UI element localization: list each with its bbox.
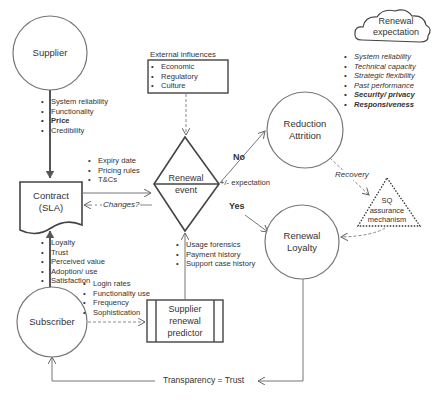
- list-item: T&Cs: [87, 175, 140, 185]
- list-item: Functionality: [40, 107, 108, 117]
- list-item: System reliability: [40, 97, 108, 107]
- sq-line1: SQ: [360, 196, 414, 206]
- transparency-to-subscriber-edge: [52, 357, 155, 381]
- list-item: Loyalty: [40, 238, 105, 248]
- supplier-label: Supplier: [20, 47, 80, 59]
- list-item: Payment history: [175, 250, 255, 260]
- list-item: Culture: [150, 81, 198, 91]
- list-item: Trust: [40, 248, 105, 258]
- list-item: Frequency: [82, 298, 150, 308]
- list-item: Credibility: [40, 126, 108, 136]
- list-item: Sophistication: [82, 308, 150, 318]
- renewal-expectation-list: System reliability Technical capacity St…: [343, 52, 416, 110]
- contract-label: Contract (SLA): [20, 190, 82, 214]
- list-item: Strategic flexibility: [343, 71, 416, 81]
- list-item: Responsiveness: [343, 100, 416, 110]
- changes-label: Changes?: [102, 200, 140, 210]
- reduction-line1: Reduction: [270, 118, 340, 130]
- contract-label-line1: Contract: [20, 190, 82, 202]
- list-item: Adoption/ use: [40, 267, 105, 277]
- renewal-event-label: Renewal event: [156, 172, 216, 196]
- yes-label: Yes: [229, 202, 245, 212]
- list-item: Expiry date: [87, 156, 140, 166]
- renewal-event-line2: event: [156, 184, 216, 196]
- list-item: Price: [40, 116, 108, 126]
- list-item: Usage forensics: [175, 240, 255, 250]
- contract-terms-list: Expiry date Pricing rules T&Cs: [87, 156, 140, 185]
- sq-line3: mechanism: [360, 215, 414, 225]
- external-influences-list: Economic Regulatory Culture: [150, 62, 198, 91]
- predictor-line3: predictor: [156, 327, 214, 339]
- yes-edge: [245, 215, 268, 232]
- list-item: Regulatory: [150, 72, 198, 82]
- list-item: Support case history: [175, 259, 255, 269]
- supplier-predictor-label: Supplier renewal predictor: [156, 303, 214, 339]
- list-item: Past performance: [343, 81, 416, 91]
- renewal-expectation-line1: Renewal: [362, 16, 430, 27]
- renewal-loyalty-line2: Loyalty: [267, 242, 337, 254]
- list-item: Perceived value: [40, 257, 105, 267]
- list-item: Functionality use: [82, 289, 150, 299]
- renewal-event-line1: Renewal: [156, 172, 216, 184]
- supplier-attributes-list: System reliability Functionality Price C…: [40, 97, 108, 135]
- sq-to-loyalty-edge: [341, 228, 385, 237]
- predictor-inputs-list: Usage forensics Payment history Support …: [175, 240, 255, 269]
- contract-label-line2: (SLA): [20, 202, 82, 214]
- external-influences-title: External influences: [150, 50, 216, 60]
- subscriber-label: Subscriber: [17, 316, 87, 328]
- list-item: System reliability: [343, 52, 416, 62]
- expectation-label: +/- expectation: [220, 178, 270, 188]
- renewal-expectation-label: Renewal expectation: [362, 16, 430, 38]
- sq-line2: assurance: [360, 206, 414, 216]
- list-item: Security/ privacy: [343, 90, 416, 100]
- reduction-attrition-label: Reduction Attrition: [270, 118, 340, 142]
- renewal-expectation-line2: expectation: [362, 27, 430, 38]
- no-label: No: [233, 153, 245, 163]
- transparency-label: Transparency = Trust: [160, 376, 247, 386]
- recovery-label: Recovery: [335, 170, 369, 180]
- transparency-edge: [258, 279, 303, 381]
- list-item: Pricing rules: [87, 166, 140, 176]
- list-item: Login rates: [82, 279, 150, 289]
- list-item: Technical capacity: [343, 62, 416, 72]
- sq-assurance-label: SQ assurance mechanism: [360, 196, 414, 225]
- attrition-line2: Attrition: [270, 130, 340, 142]
- renewal-loyalty-label: Renewal Loyalty: [267, 230, 337, 254]
- predictor-line2: renewal: [156, 315, 214, 327]
- list-item: Economic: [150, 62, 198, 72]
- predictor-line1: Supplier: [156, 303, 214, 315]
- usage-signals-list: Login rates Functionality use Frequency …: [82, 279, 150, 317]
- renewal-loyalty-line1: Renewal: [267, 230, 337, 242]
